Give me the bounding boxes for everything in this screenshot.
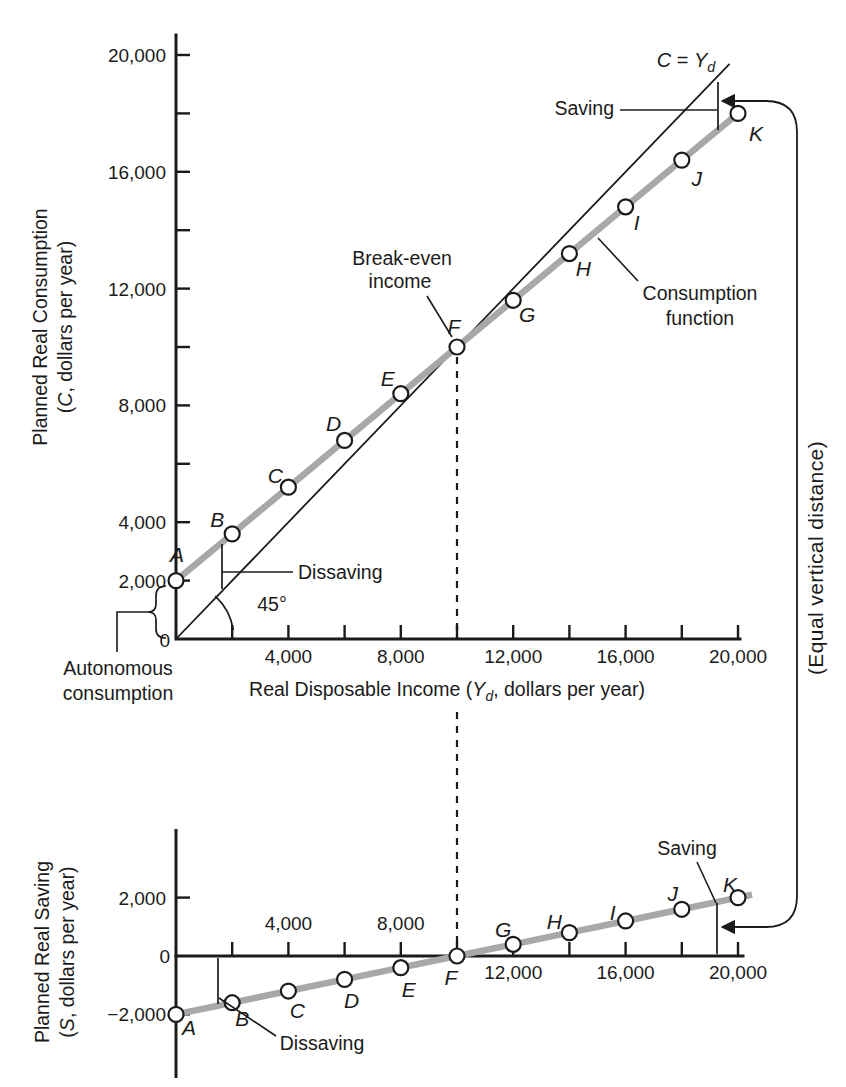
bottom-y-axis-title-line2: (S, dollars per year) (56, 866, 78, 1037)
bottom-dissaving-pointer (219, 998, 276, 1036)
bottom-x-tick-label-20000: 20,000 (709, 962, 767, 983)
top-y-axis-title-line2: (C, dollars per year) (54, 241, 76, 413)
top-x-tick-label-12000: 12,000 (484, 646, 542, 667)
bottom-point-label-E: E (402, 978, 417, 1001)
top-point-A (169, 573, 184, 588)
angle-arc (215, 596, 233, 630)
bottom-point-label-J: J (667, 882, 679, 905)
top-point-label-H: H (576, 257, 592, 280)
top-point-label-I: I (634, 211, 640, 234)
bottom-point-H (562, 925, 577, 940)
angle-label: 45° (257, 593, 287, 615)
figure-canvas: 4,0008,00012,00016,00020,0002,0004,0008,… (0, 0, 846, 1087)
bottom-x-tick-label-8000: 8,000 (377, 913, 425, 934)
break-even-label-line2: income (369, 270, 432, 292)
top-point-label-J: J (691, 167, 703, 190)
consumption-function-label-line2: function (666, 307, 734, 329)
bottom-point-label-F: F (445, 966, 459, 989)
bottom-point-label-K: K (723, 873, 738, 896)
top-y-tick-label-8000: 8,000 (118, 395, 166, 416)
bottom-point-I (618, 913, 633, 928)
equal-distance-label: (Equal vertical distance) (804, 441, 827, 675)
bottom-point-label-I: I (610, 901, 616, 924)
bottom-point-label-G: G (495, 918, 511, 941)
top-saving-label: Saving (554, 97, 614, 119)
identity-line-label: C = Yd (657, 49, 717, 75)
top-x-tick-label-16000: 16,000 (597, 646, 655, 667)
autonomous-bracket (117, 612, 148, 652)
autonomous-label-line2: consumption (63, 682, 174, 704)
bottom-y-tick-label-2000: 2,000 (118, 888, 166, 909)
top-point-label-K: K (749, 122, 764, 145)
top-point-label-C: C (268, 464, 284, 487)
bottom-y-tick-label--2000: −2,000 (107, 1004, 166, 1025)
top-point-H (562, 246, 577, 261)
top-x-tick-label-4000: 4,000 (265, 646, 313, 667)
top-point-E (393, 386, 408, 401)
top-y-axis-title-line1: Planned Real Consumption (29, 208, 51, 445)
top-x-tick-label-20000: 20,000 (709, 646, 767, 667)
bottom-point-D (337, 972, 352, 987)
top-point-F (450, 340, 465, 355)
break-even-label-line1: Break-even (352, 247, 452, 269)
autonomous-label-line1: Autonomous (63, 657, 173, 679)
equal-distance-connector-arrow (723, 101, 797, 927)
bottom-y-axis-title-line1: Planned Real Saving (31, 861, 53, 1043)
top-x-axis-title: Real Disposable Income (Yd, dollars per … (249, 678, 645, 704)
top-point-label-B: B (210, 508, 224, 531)
top-point-label-D: D (326, 412, 341, 435)
top-x-tick-label-8000: 8,000 (377, 646, 425, 667)
top-y-tick-label-12000: 12,000 (108, 279, 166, 300)
bottom-point-label-C: C (290, 999, 306, 1022)
top-y-tick-label-16000: 16,000 (108, 162, 166, 183)
top-origin-label: 0 (159, 630, 170, 651)
bottom-point-label-D: D (344, 989, 359, 1012)
top-point-I (618, 199, 633, 214)
bottom-point-C (281, 984, 296, 999)
top-point-label-G: G (519, 303, 535, 326)
bottom-point-label-H: H (547, 910, 563, 933)
top-dissaving-label: Dissaving (298, 561, 383, 583)
top-point-label-A: A (168, 543, 184, 566)
bottom-point-label-A: A (180, 1016, 196, 1039)
bottom-x-tick-label-16000: 16,000 (597, 962, 655, 983)
bottom-y-axis-title: Planned Real Saving(S, dollars per year) (31, 861, 78, 1043)
top-point-C (281, 480, 296, 495)
bottom-point-F (450, 949, 465, 964)
bottom-saving-pointer (697, 862, 716, 903)
bottom-origin-label: 0 (159, 946, 170, 967)
bottom-dissaving-label: Dissaving (280, 1032, 365, 1054)
bottom-x-tick-label-4000: 4,000 (265, 913, 313, 934)
top-point-J (674, 153, 689, 168)
bottom-x-tick-label-12000: 12,000 (484, 962, 542, 983)
consumption-saving-figure: 4,0008,00012,00016,00020,0002,0004,0008,… (0, 0, 846, 1087)
top-y-tick-label-20000: 20,000 (108, 45, 166, 66)
top-point-K (731, 106, 746, 121)
top-point-label-E: E (381, 367, 396, 390)
bottom-saving-label: Saving (657, 837, 717, 859)
top-y-axis-title: Planned Real Consumption(C, dollars per … (29, 208, 76, 445)
top-y-tick-label-4000: 4,000 (118, 512, 166, 533)
consumption-function-pointer (598, 238, 638, 281)
bottom-point-E (393, 960, 408, 975)
top-point-B (225, 526, 240, 541)
consumption-function-label-line1: Consumption (643, 282, 758, 304)
